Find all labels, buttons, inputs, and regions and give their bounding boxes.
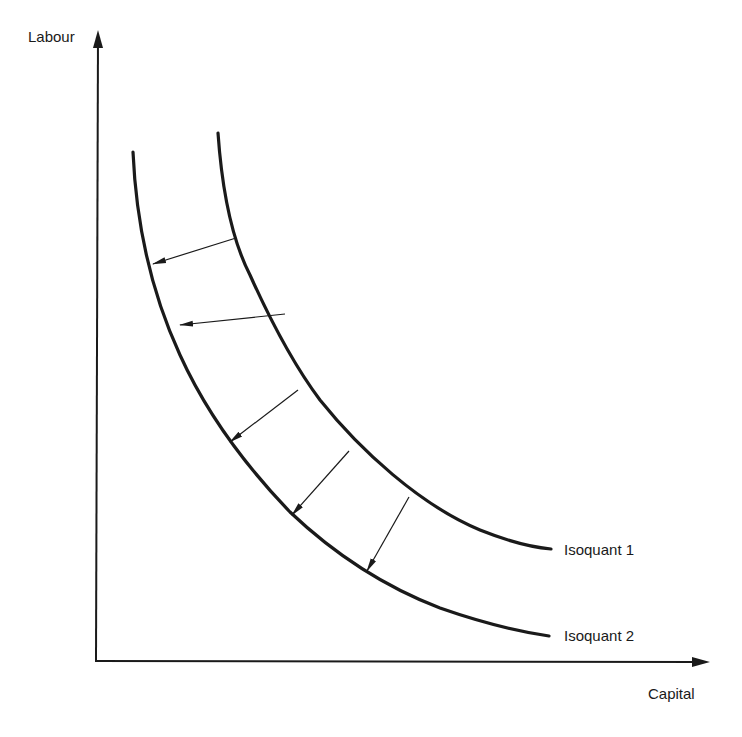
isoquant-1-label: Isoquant 1 [564,541,634,558]
x-axis-label: Capital [648,685,695,702]
isoquant-2-label: Isoquant 2 [564,627,634,644]
shift-arrow-4 [292,451,349,515]
y-axis-label: Labour [28,28,75,45]
x-axis-arrowhead-icon [692,657,710,667]
isoquant-2-curve [133,152,549,636]
y-axis-arrowhead-icon [93,30,103,48]
shift-arrow-2 [180,314,285,325]
axes [93,30,710,667]
shift-arrow-1 [153,238,236,264]
shift-arrows [153,238,409,571]
shift-arrow-3 [230,390,298,442]
y-axis [96,36,98,661]
shift-arrow-5 [367,497,409,571]
x-axis [95,661,700,662]
